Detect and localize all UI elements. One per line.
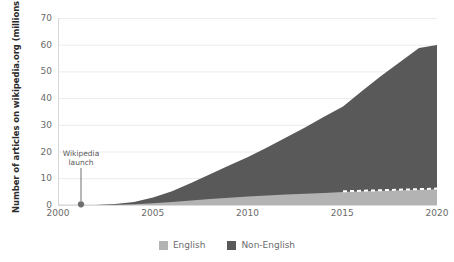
legend-swatch-icon xyxy=(227,241,236,250)
chart-container: Number of articles on wikipedia.org (mil… xyxy=(0,0,454,262)
legend-label: English xyxy=(173,240,206,250)
legend-label: Non-English xyxy=(241,240,295,250)
wikipedia-launch-annotation-marker xyxy=(78,168,84,207)
chart-legend: English Non-English xyxy=(0,240,454,250)
x-tick-label: 2010 xyxy=(228,209,268,218)
x-tick-label: 2005 xyxy=(133,209,173,218)
x-tick-label: 2000 xyxy=(38,209,78,218)
plot-svg xyxy=(0,0,454,262)
x-tick-label: 2020 xyxy=(417,209,454,218)
x-tick-label: 2015 xyxy=(322,209,362,218)
annotation-dot xyxy=(78,201,84,207)
legend-swatch-icon xyxy=(159,241,168,250)
legend-item-english[interactable]: English xyxy=(159,240,206,250)
legend-item-non-english[interactable]: Non-English xyxy=(227,240,295,250)
wikipedia-launch-label: Wikipedia launch xyxy=(51,150,111,167)
